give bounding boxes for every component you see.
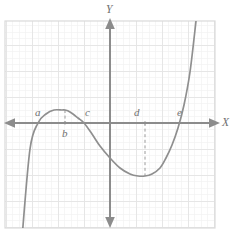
label-d: d — [134, 107, 140, 118]
graph-figure: a b c d e Y X — [0, 0, 237, 238]
axis-marker-d — [144, 122, 147, 125]
label-e: e — [177, 107, 182, 118]
axis-marker-b — [64, 122, 67, 125]
label-b: b — [62, 128, 68, 139]
graph-canvas — [0, 0, 237, 238]
label-c: c — [85, 107, 90, 118]
x-axis-label: X — [222, 117, 229, 128]
y-axis-label: Y — [106, 4, 112, 15]
label-a: a — [35, 107, 41, 118]
